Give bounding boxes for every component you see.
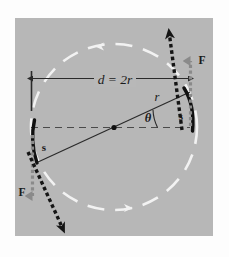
center-point-dot [111,125,116,130]
diameter-label: d = 2r [98,72,133,87]
figure-root: d = 2r θ r s F s F [0,0,229,257]
radius-label: r [155,90,160,104]
force-label-right: F [198,54,205,66]
angle-theta-label: θ [145,111,152,125]
arc-label-left: s [42,141,47,153]
rotational-torque-diagram: d = 2r θ r s F s F [0,0,229,257]
force-label-left: F [18,186,25,198]
